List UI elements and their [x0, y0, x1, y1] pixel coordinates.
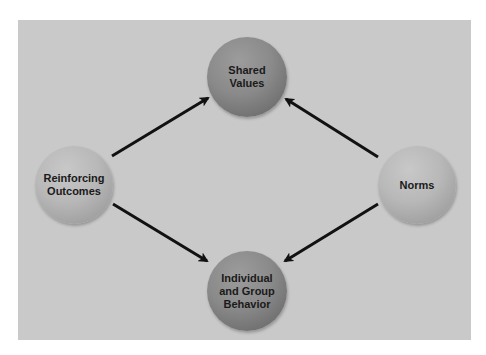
- node-norms: Norms: [378, 146, 456, 224]
- node-label-individual-group-behavior: Individual and Group Behavior: [219, 272, 275, 311]
- node-reinforcing-outcomes: Reinforcing Outcomes: [35, 146, 113, 224]
- arrow-reinforcing-to-behavior: [113, 204, 207, 261]
- node-label-reinforcing-outcomes: Reinforcing Outcomes: [43, 172, 104, 198]
- node-individual-group-behavior: Individual and Group Behavior: [207, 251, 287, 331]
- node-label-norms: Norms: [400, 179, 435, 192]
- arrow-norms-to-behavior: [285, 204, 378, 261]
- node-label-shared-values: Shared Values: [228, 64, 265, 90]
- arrow-reinforcing-to-shared-values: [112, 98, 208, 156]
- arrow-norms-to-shared-values: [286, 99, 378, 157]
- node-shared-values: Shared Values: [207, 37, 287, 117]
